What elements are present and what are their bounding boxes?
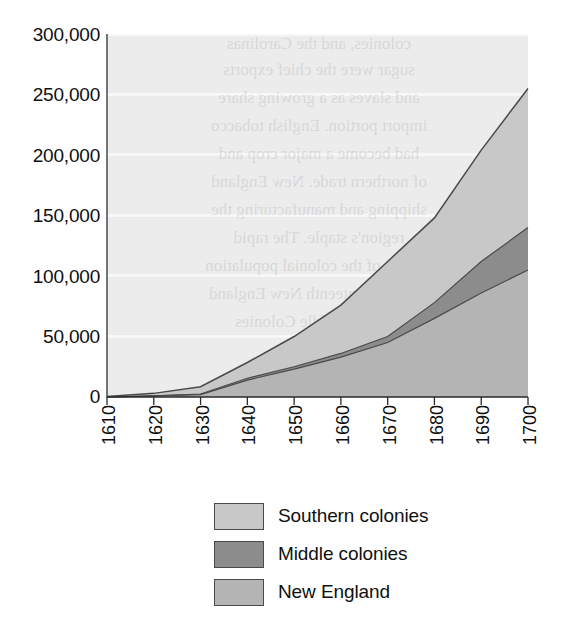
- x-axis-tick-labels: 1610 1620 1630 1640 1650 1660 1670 1680 …: [0, 0, 572, 480]
- x-tick-label: 1690: [473, 405, 494, 445]
- x-tick-label: 1660: [333, 405, 354, 445]
- x-tick-label: 1640: [239, 405, 260, 445]
- legend-swatch-middle-colonies: [214, 541, 264, 568]
- legend-item: Southern colonies: [214, 497, 494, 535]
- legend-label: Southern colonies: [278, 505, 428, 527]
- x-tick-label: 1630: [193, 405, 214, 445]
- x-tick-label: 1650: [286, 405, 307, 445]
- population-area-chart: colonies, and the Carolinas sugar were t…: [0, 0, 572, 624]
- legend-item: Middle colonies: [214, 535, 494, 573]
- x-tick-label: 1610: [99, 405, 120, 445]
- legend-swatch-southern-colonies: [214, 503, 264, 530]
- legend-item: New England: [214, 573, 494, 611]
- x-tick-label: 1680: [427, 405, 448, 445]
- chart-legend: Southern colonies Middle colonies New En…: [214, 497, 494, 611]
- legend-label: New England: [278, 581, 390, 603]
- x-tick-label: 1620: [146, 405, 167, 445]
- x-tick-label: 1670: [380, 405, 401, 445]
- x-tick-label: 1700: [520, 405, 541, 445]
- legend-label: Middle colonies: [278, 543, 407, 565]
- legend-swatch-new-england: [214, 579, 264, 606]
